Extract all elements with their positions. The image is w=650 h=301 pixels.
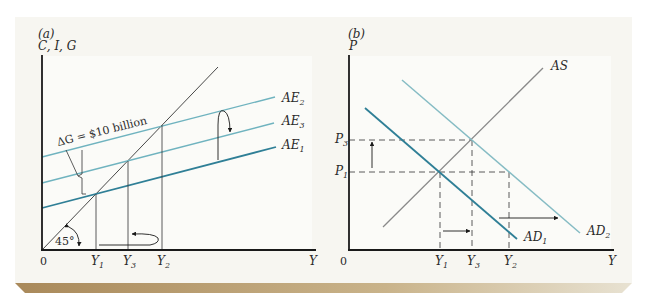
angle-label: 45° (55, 235, 75, 248)
card-shadow (15, 283, 632, 293)
panel-a-y-axis-label: C, I, G (38, 39, 77, 53)
panel-a-plot-area (42, 56, 312, 250)
figure-container: (a) C, I, G ΔG = $10 billion 45° AE2 AE3… (0, 0, 650, 301)
panel-b-x-axis-label: Y (608, 254, 617, 268)
panel-a-x-axis-label: Y (309, 254, 318, 268)
panel-a: (a) C, I, G ΔG = $10 billion 45° AE2 AE3… (38, 27, 318, 270)
panel-b: (b) P AS AD1 AD2 P3 P1 0 Y1 Y3 (334, 27, 617, 270)
panel-b-y-axis-label: P (348, 39, 358, 53)
economics-figure: (a) C, I, G ΔG = $10 billion 45° AE2 AE3… (0, 0, 650, 301)
as-label: AS (550, 59, 568, 73)
panel-a-origin-label: 0 (40, 255, 47, 268)
panel-b-origin-label: 0 (340, 255, 347, 268)
